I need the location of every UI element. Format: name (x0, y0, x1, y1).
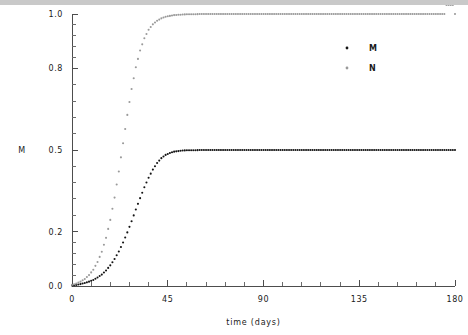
data-point (154, 165, 156, 167)
data-point (224, 13, 226, 15)
data-point (373, 13, 375, 15)
data-point (454, 149, 456, 151)
data-point (124, 236, 126, 238)
data-point (352, 13, 354, 15)
data-point (222, 149, 224, 151)
data-series-group (71, 5, 456, 287)
data-point (199, 149, 201, 151)
data-point (82, 279, 84, 281)
data-point (331, 13, 333, 15)
data-point (267, 149, 269, 151)
data-point (254, 13, 256, 15)
data-point (294, 13, 296, 15)
data-point (231, 149, 233, 151)
data-point (296, 149, 298, 151)
data-point (237, 13, 239, 15)
data-point (141, 43, 143, 45)
data-point (177, 150, 179, 152)
data-point (73, 283, 75, 285)
data-point (405, 13, 407, 15)
data-point (331, 149, 333, 151)
data-point (426, 13, 428, 15)
data-point (224, 149, 226, 151)
data-point (160, 17, 162, 19)
data-point (171, 14, 173, 16)
data-point (394, 149, 396, 151)
data-point (245, 149, 247, 151)
data-point (448, 149, 450, 151)
data-point (452, 5, 454, 6)
data-point (265, 149, 267, 151)
data-point (405, 149, 407, 151)
data-point (182, 13, 184, 15)
data-point (148, 29, 150, 31)
data-point (360, 13, 362, 15)
data-point (348, 149, 350, 151)
data-point (133, 77, 135, 79)
data-point (201, 149, 203, 151)
data-point (435, 149, 437, 151)
data-point (220, 149, 222, 151)
data-point (328, 13, 330, 15)
data-point (401, 149, 403, 151)
data-point (158, 160, 160, 162)
data-point (256, 149, 258, 151)
data-point (254, 149, 256, 151)
data-point (392, 149, 394, 151)
data-point (269, 13, 271, 15)
data-point (211, 149, 213, 151)
data-point (356, 13, 358, 15)
data-point (167, 15, 169, 17)
data-point (324, 149, 326, 151)
data-point (303, 149, 305, 151)
data-point (377, 149, 379, 151)
data-point (133, 214, 135, 216)
data-point (420, 149, 422, 151)
data-point (235, 149, 237, 151)
data-point (88, 274, 90, 276)
data-point (382, 149, 384, 151)
data-point (101, 251, 103, 253)
data-point (424, 149, 426, 151)
data-point (431, 149, 433, 151)
data-point (162, 16, 164, 18)
data-point (177, 14, 179, 16)
data-point (135, 209, 137, 211)
data-point (365, 13, 367, 15)
data-point (218, 149, 220, 151)
data-point (90, 271, 92, 273)
y-tick-label: 0.5 (48, 146, 63, 155)
data-point (365, 149, 367, 151)
data-point (203, 13, 205, 15)
data-point (79, 281, 81, 283)
data-point (339, 149, 341, 151)
data-point (390, 13, 392, 15)
data-point (375, 149, 377, 151)
data-point (403, 149, 405, 151)
data-point (443, 13, 445, 15)
data-point (239, 149, 241, 151)
data-point (418, 149, 420, 151)
data-point (318, 13, 320, 15)
data-point (158, 19, 160, 21)
data-point (150, 26, 152, 28)
data-point (192, 13, 194, 15)
data-point (445, 5, 447, 6)
data-point (292, 13, 294, 15)
data-point (416, 149, 418, 151)
data-point (154, 22, 156, 24)
data-point (243, 13, 245, 15)
data-point (328, 149, 330, 151)
data-point (388, 149, 390, 151)
data-point (203, 149, 205, 151)
data-point (411, 149, 413, 151)
data-point (250, 149, 252, 151)
data-point (214, 13, 216, 15)
data-point (152, 169, 154, 171)
data-point (377, 13, 379, 15)
y-tick-label: 0.0 (48, 282, 63, 291)
data-point (214, 149, 216, 151)
data-point (354, 13, 356, 15)
data-point (88, 281, 90, 283)
data-point (205, 13, 207, 15)
